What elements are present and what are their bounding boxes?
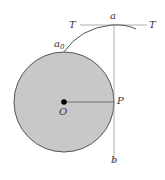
involute-diagram: T T a a0 P O b [0, 0, 165, 180]
label-a: a [110, 10, 116, 21]
label-t-right: T [149, 19, 157, 30]
label-a0: a0 [54, 38, 65, 51]
label-t-left: T [69, 19, 77, 30]
label-b: b [111, 154, 117, 165]
center-dot [61, 99, 67, 105]
label-o: O [59, 106, 67, 117]
label-p: P [116, 95, 124, 106]
